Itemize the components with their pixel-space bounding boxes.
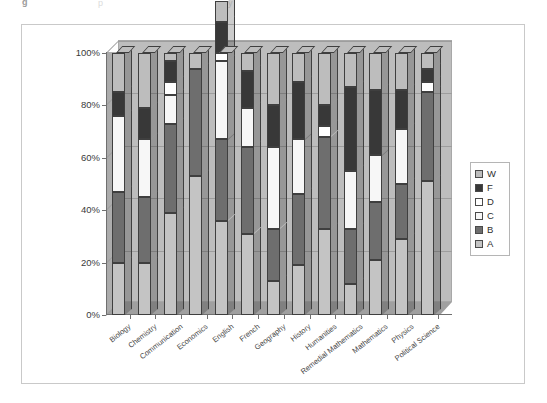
bar-segment[interactable] — [369, 155, 382, 202]
bar-segment-side-face — [151, 47, 158, 108]
legend-swatch-d — [475, 198, 483, 206]
bar-segment[interactable] — [112, 92, 125, 116]
bar-column[interactable] — [215, 53, 228, 315]
bar-segment[interactable] — [369, 53, 382, 90]
bar-segment[interactable] — [267, 53, 280, 105]
bar-segment[interactable] — [138, 53, 151, 108]
bar-segment[interactable] — [344, 53, 357, 87]
bar-column[interactable] — [241, 53, 254, 315]
bar-column[interactable] — [292, 53, 305, 315]
bar-segment[interactable] — [112, 263, 125, 315]
cropped-header-remnant: g p y — [0, 0, 547, 12]
bar-segment[interactable] — [267, 147, 280, 228]
bar-column[interactable] — [112, 53, 125, 315]
bar-segment[interactable] — [215, 53, 228, 61]
bar-column[interactable] — [267, 53, 280, 315]
chart-legend: WFDCBA — [470, 162, 510, 256]
bar-segment-side-face — [382, 149, 389, 202]
bar-segment[interactable] — [112, 116, 125, 192]
bar-segment-side-face — [151, 191, 158, 263]
bar-segment[interactable] — [215, 1, 228, 22]
bar-segment[interactable] — [344, 87, 357, 171]
bar-segment[interactable] — [241, 71, 254, 108]
bar-segment[interactable] — [292, 82, 305, 140]
bar-segment[interactable] — [164, 95, 177, 124]
bar-segment[interactable] — [395, 53, 408, 90]
bar-segment-side-face — [125, 47, 132, 93]
bar-segment[interactable] — [318, 53, 331, 105]
bar-segment[interactable] — [292, 139, 305, 194]
bar-segment[interactable] — [318, 229, 331, 315]
bar-segment[interactable] — [395, 184, 408, 239]
bar-segment[interactable] — [241, 108, 254, 147]
bar-segment[interactable] — [292, 53, 305, 82]
bar-segment[interactable] — [164, 82, 177, 95]
bar-column[interactable] — [395, 53, 408, 315]
bar-segment[interactable] — [215, 139, 228, 220]
bar-segment[interactable] — [318, 137, 331, 229]
bar-segment[interactable] — [164, 61, 177, 82]
legend-swatch-b — [475, 226, 483, 234]
legend-item[interactable]: B — [475, 223, 506, 237]
bar-segment[interactable] — [421, 53, 434, 69]
legend-item[interactable]: A — [475, 237, 506, 251]
bar-segment[interactable] — [215, 61, 228, 140]
y-axis-label: 100% — [54, 48, 100, 58]
bar-segment[interactable] — [369, 202, 382, 260]
bar-segment[interactable] — [164, 124, 177, 213]
bar-segment-side-face — [305, 76, 312, 140]
bar-segment[interactable] — [112, 53, 125, 92]
gridline — [118, 41, 452, 42]
bar-column[interactable] — [189, 53, 202, 315]
bar-segment[interactable] — [138, 139, 151, 197]
legend-item[interactable]: F — [475, 181, 506, 195]
bar-segment-side-face — [280, 141, 287, 229]
bar-segment[interactable] — [112, 192, 125, 263]
bar-segment-side-face — [280, 222, 287, 281]
bar-segment[interactable] — [395, 90, 408, 129]
bar-segment-side-face — [305, 133, 312, 194]
bar-segment[interactable] — [164, 213, 177, 315]
bar-segment-side-face — [408, 47, 415, 90]
bar-segment[interactable] — [138, 197, 151, 263]
bar-segment[interactable] — [241, 53, 254, 71]
legend-item[interactable]: D — [475, 195, 506, 209]
plot-area: 0%20%40%60%80%100% BiologyChemistryCommu… — [22, 25, 526, 385]
bar-segment[interactable] — [421, 82, 434, 92]
bar-segment[interactable] — [318, 126, 331, 136]
bar-segment[interactable] — [344, 229, 357, 284]
bar-segment[interactable] — [421, 181, 434, 315]
bar-segment-side-face — [280, 47, 287, 106]
bar-column[interactable] — [369, 53, 382, 315]
bar-segment-side-face — [177, 117, 184, 212]
bar-segment-side-face — [331, 131, 338, 229]
bar-segment[interactable] — [318, 105, 331, 126]
legend-item[interactable]: W — [475, 167, 506, 181]
bar-segment[interactable] — [267, 105, 280, 147]
bar-column[interactable] — [421, 53, 434, 315]
bar-column[interactable] — [164, 53, 177, 315]
bar-segment[interactable] — [421, 92, 434, 181]
legend-swatch-a — [475, 240, 483, 248]
legend-swatch-w — [475, 170, 483, 178]
y-axis-label: 60% — [54, 153, 100, 163]
bar-segment[interactable] — [241, 234, 254, 315]
bar-segment[interactable] — [344, 171, 357, 229]
bar-segment[interactable] — [138, 108, 151, 139]
bar-segment[interactable] — [189, 53, 202, 69]
bar-segment[interactable] — [267, 229, 280, 281]
bar-segment[interactable] — [421, 69, 434, 82]
legend-item[interactable]: C — [475, 209, 506, 223]
bar-segment[interactable] — [241, 147, 254, 233]
bar-segment-side-face — [228, 55, 235, 140]
bar-segment[interactable] — [189, 69, 202, 176]
bar-column[interactable] — [138, 53, 151, 315]
bar-segment[interactable] — [189, 176, 202, 315]
bar-segment[interactable] — [292, 194, 305, 265]
bar-column[interactable] — [344, 53, 357, 315]
bar-segment[interactable] — [164, 53, 177, 61]
bar-segment[interactable] — [395, 129, 408, 184]
bar-segment-side-face — [408, 123, 415, 184]
bar-column[interactable] — [318, 53, 331, 315]
bar-segment[interactable] — [369, 90, 382, 156]
